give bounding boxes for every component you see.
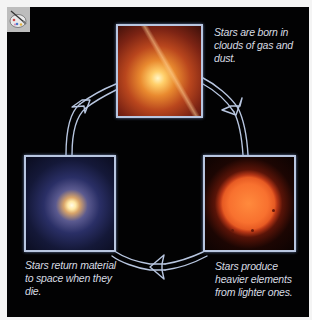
caption-return: Stars return material to space when they… — [25, 259, 125, 298]
caption-produce: Stars produce heavier elements from ligh… — [215, 260, 305, 299]
sun-image — [203, 155, 296, 252]
caption-born: Stars are born in clouds of gas and dust… — [214, 26, 304, 65]
sunspot — [231, 229, 234, 232]
dying-star-image — [24, 155, 116, 252]
paint-palette-icon — [7, 7, 30, 32]
palette-icon[interactable] — [7, 7, 30, 32]
sunspot — [272, 209, 275, 212]
star-formation-image — [116, 24, 203, 118]
sunspot — [251, 229, 254, 232]
